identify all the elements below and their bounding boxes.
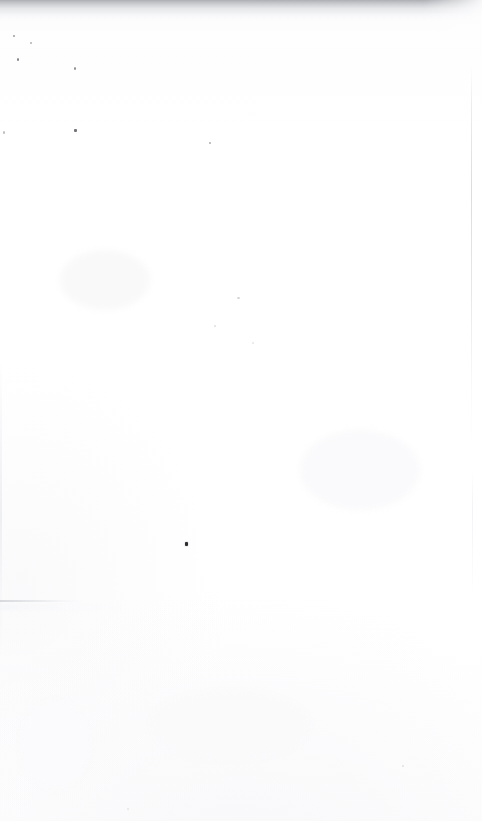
top-edge-speckle-texture	[0, 0, 482, 40]
ink-speck	[127, 808, 129, 810]
top-edge-shadow-band	[0, 0, 482, 26]
ink-speck	[3, 131, 5, 134]
right-page-edge-line-lower	[472, 470, 473, 600]
scanned-page	[0, 0, 482, 821]
ink-speck	[13, 35, 15, 37]
ink-speck	[402, 765, 404, 767]
ink-speck	[30, 42, 32, 44]
ink-speck	[17, 58, 19, 61]
bottom-page-dust-texture	[0, 781, 482, 821]
left-page-edge-line	[0, 360, 2, 660]
right-page-edge-line	[471, 66, 472, 446]
page-body-text	[42, 56, 440, 756]
